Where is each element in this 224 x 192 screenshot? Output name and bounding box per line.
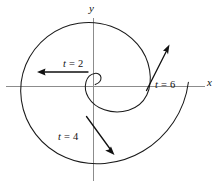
velocity-vector-t2: [37, 69, 88, 76]
annotation-t2-value: 2: [78, 58, 83, 69]
velocity-vector-t2-arrowhead: [37, 69, 46, 76]
spiral-curve-group: [21, 22, 189, 163]
velocity-vector-t4-shaft: [87, 117, 111, 150]
spiral-curve: [21, 22, 189, 163]
annotation-t4-value: 4: [73, 131, 78, 142]
x-axis-label: x: [207, 77, 212, 88]
velocity-vector-t6-arrowhead: [163, 45, 170, 55]
annotation-t4-relation: =: [61, 131, 73, 142]
annotation-t6-relation: =: [158, 79, 170, 90]
figure-canvas: [0, 0, 224, 192]
axes-group: [6, 18, 205, 181]
annotation-t4: t = 4: [58, 132, 78, 143]
annotation-t6: t = 6: [155, 80, 175, 91]
y-axis-label: y: [89, 3, 94, 14]
annotation-t6-value: 6: [170, 79, 175, 90]
annotation-t2-relation: =: [66, 58, 78, 69]
annotation-t2: t = 2: [63, 59, 83, 70]
spiral-figure: y x t = 2 t = 4 t = 6: [0, 0, 224, 192]
velocity-vector-t4: [87, 117, 115, 156]
